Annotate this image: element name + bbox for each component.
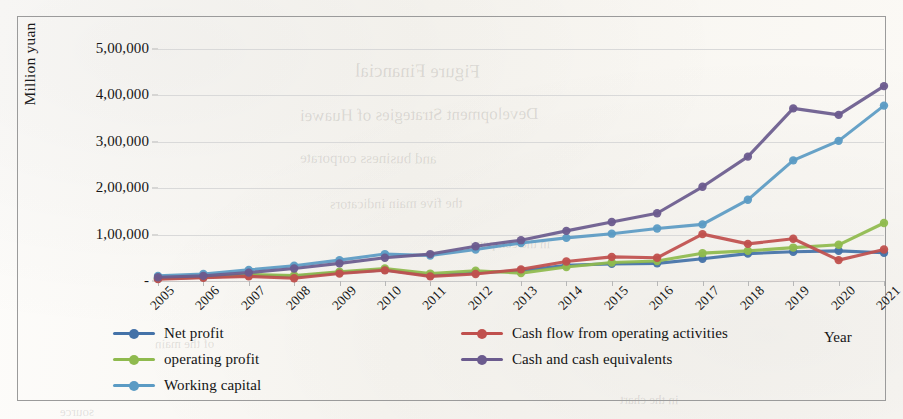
x-tick-label: 2018 [737, 283, 768, 314]
data-point [834, 111, 842, 119]
data-point [471, 242, 479, 250]
y-axis-title: Million yuan [21, 0, 39, 144]
data-point [608, 218, 616, 226]
data-point [744, 196, 752, 204]
y-tick-label: 4,00,000 [96, 87, 149, 104]
data-point [471, 270, 479, 278]
chart-frame: Million yuan Year 5,00,0004,00,0003,00,0… [17, 16, 886, 401]
legend-swatch-icon [461, 354, 503, 366]
data-point [381, 254, 389, 262]
x-tick-label: 2014 [555, 283, 586, 314]
data-point [698, 220, 706, 228]
data-point [653, 209, 661, 217]
data-point [154, 273, 162, 281]
x-tick-mark [793, 281, 794, 286]
series-lines [158, 49, 884, 281]
x-tick-mark [612, 281, 613, 286]
legend-swatch-icon [113, 328, 155, 340]
legend-item[interactable]: Net profit [113, 325, 224, 342]
x-tick-label: 2010 [374, 283, 405, 314]
x-tick-mark [748, 281, 749, 286]
data-point [834, 241, 842, 249]
y-tick-label: - [144, 272, 149, 289]
legend-label: Cash and cash equivalents [512, 351, 672, 368]
x-tick-label: 2009 [328, 283, 359, 314]
data-point [880, 101, 888, 109]
x-tick-mark [566, 281, 567, 286]
data-point [381, 266, 389, 274]
x-tick-label: 2011 [419, 283, 450, 314]
data-point [335, 259, 343, 267]
x-tick-label: 2016 [646, 283, 677, 314]
y-tick-label: 2,00,000 [96, 179, 149, 196]
data-point [698, 183, 706, 191]
legend-label: Net profit [164, 325, 224, 342]
data-point [789, 104, 797, 112]
y-tick-label: 5,00,000 [96, 40, 149, 57]
legend-label: Cash flow from operating activities [512, 325, 728, 342]
x-tick-mark [385, 281, 386, 286]
data-point [834, 256, 842, 264]
x-tick-mark [340, 281, 341, 286]
data-point [834, 137, 842, 145]
legend-swatch-icon [113, 354, 155, 366]
data-point [290, 264, 298, 272]
scanned-page: Figure FinancialDevelopment Strategies o… [0, 0, 903, 419]
x-tick-label: 2021 [873, 283, 903, 314]
x-tick-label: 2019 [782, 283, 813, 314]
data-point [562, 227, 570, 235]
legend-item[interactable]: Cash and cash equivalents [461, 351, 672, 368]
data-point [290, 274, 298, 282]
data-point [608, 229, 616, 237]
x-tick-label: 2015 [601, 283, 632, 314]
data-point [426, 250, 434, 258]
data-point [744, 152, 752, 160]
x-tick-label: 2012 [465, 283, 496, 314]
legend-item[interactable]: Cash flow from operating activities [461, 325, 728, 342]
data-point [199, 272, 207, 280]
x-tick-mark [703, 281, 704, 286]
data-point [245, 268, 253, 276]
x-tick-label: 2017 [691, 283, 722, 314]
y-tick-label: 1,00,000 [96, 226, 149, 243]
x-tick-mark [249, 281, 250, 286]
legend-label: operating profit [164, 351, 259, 368]
data-point [880, 219, 888, 227]
data-point [517, 236, 525, 244]
data-point [880, 245, 888, 253]
x-tick-label: 2020 [828, 283, 859, 314]
x-tick-label: 2007 [238, 283, 269, 314]
x-tick-mark [430, 281, 431, 286]
data-point [880, 82, 888, 90]
x-tick-mark [884, 281, 885, 286]
data-point [789, 243, 797, 251]
legend-swatch-icon [461, 328, 503, 340]
data-point [698, 230, 706, 238]
data-point [653, 254, 661, 262]
x-tick-label: 2008 [283, 283, 314, 314]
data-point [653, 224, 661, 232]
x-tick-mark [476, 281, 477, 286]
legend-item[interactable]: operating profit [113, 351, 259, 368]
data-point [698, 249, 706, 257]
x-tick-mark [521, 281, 522, 286]
data-point [426, 272, 434, 280]
data-point [744, 240, 752, 248]
x-tick-mark [839, 281, 840, 286]
bleedthrough-text: source [60, 404, 94, 419]
x-tick-mark [657, 281, 658, 286]
data-point [335, 269, 343, 277]
data-point [608, 253, 616, 261]
x-tick-label: 2005 [147, 283, 178, 314]
data-point [517, 265, 525, 273]
legend-item[interactable]: Working capital [113, 377, 261, 394]
data-point [789, 235, 797, 243]
y-tick-label: 3,00,000 [96, 133, 149, 150]
data-point [789, 156, 797, 164]
x-tick-label: 2006 [192, 283, 223, 314]
legend-swatch-icon [113, 380, 155, 392]
chart-legend: Net profitoperating profitWorking capita… [113, 325, 873, 397]
data-point [562, 257, 570, 265]
legend-label: Working capital [164, 377, 261, 394]
x-tick-label: 2013 [510, 283, 541, 314]
